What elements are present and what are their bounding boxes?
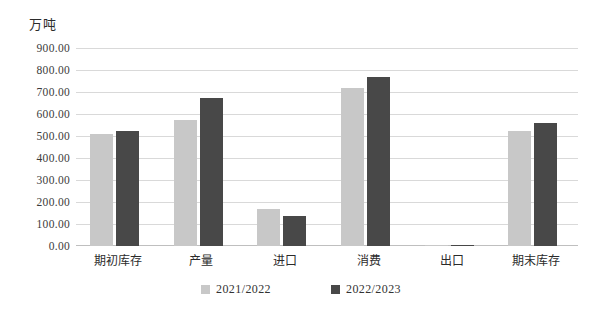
chart-legend: 2021/20222022/2023 xyxy=(0,282,602,297)
y-axis-tick-label: 100.00 xyxy=(4,218,70,230)
legend-label: 2022/2023 xyxy=(346,282,401,297)
x-axis-label: 期末库存 xyxy=(494,251,578,268)
y-axis-tick-label: 600.00 xyxy=(4,108,70,120)
legend-item-2[interactable]: 2022/2023 xyxy=(331,282,401,297)
y-axis-tick-label: 400.00 xyxy=(4,152,70,164)
x-axis-label: 期初库存 xyxy=(76,251,160,268)
legend-swatch-icon xyxy=(331,285,340,294)
x-axis-label: 进口 xyxy=(243,251,327,268)
legend-swatch-icon xyxy=(201,285,210,294)
x-axis-label: 出口 xyxy=(411,251,495,268)
y-axis-tick-label: 0.00 xyxy=(4,240,70,252)
y-axis-unit-label: 万吨 xyxy=(29,14,57,33)
y-axis-tick-layer: 0.00100.00200.00300.00400.00500.00600.00… xyxy=(76,48,578,246)
x-axis-label: 产量 xyxy=(160,251,244,268)
bar-chart: 万吨 期初库存产量进口消费出口期末库存 0.00100.00200.00300.… xyxy=(0,0,602,317)
y-axis-tick-label: 900.00 xyxy=(4,42,70,54)
legend-label: 2021/2022 xyxy=(216,282,271,297)
y-axis-tick-label: 500.00 xyxy=(4,130,70,142)
y-axis-tick-label: 800.00 xyxy=(4,64,70,76)
y-axis-tick-label: 200.00 xyxy=(4,196,70,208)
y-axis-tick-label: 700.00 xyxy=(4,86,70,98)
x-axis-label: 消费 xyxy=(327,251,411,268)
y-axis-tick-label: 300.00 xyxy=(4,174,70,186)
legend-item-1[interactable]: 2021/2022 xyxy=(201,282,271,297)
